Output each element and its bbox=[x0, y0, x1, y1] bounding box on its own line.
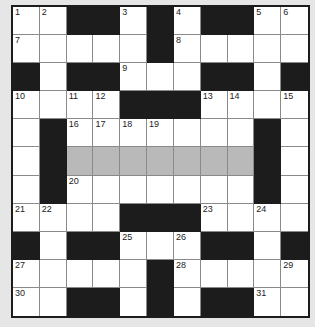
answer-cell[interactable]: 22 bbox=[40, 204, 67, 232]
answer-cell[interactable] bbox=[147, 63, 174, 91]
answer-cell[interactable] bbox=[67, 204, 94, 232]
answer-cell[interactable] bbox=[93, 35, 120, 63]
answer-cell[interactable]: 10 bbox=[13, 91, 40, 119]
clue-number: 8 bbox=[176, 36, 181, 45]
answer-cell[interactable]: 6 bbox=[281, 7, 308, 35]
answer-cell[interactable]: 30 bbox=[13, 288, 40, 316]
answer-cell[interactable] bbox=[281, 204, 308, 232]
answer-cell[interactable] bbox=[40, 232, 67, 260]
black-square bbox=[147, 7, 174, 35]
answer-cell[interactable] bbox=[40, 288, 67, 316]
black-square bbox=[67, 232, 94, 260]
answer-cell[interactable] bbox=[254, 91, 281, 119]
shaded-answer-cell[interactable] bbox=[174, 147, 201, 175]
answer-cell[interactable]: 23 bbox=[201, 204, 228, 232]
crossword-grid: 1234567891011121314151617181920212223242… bbox=[11, 5, 310, 318]
answer-cell[interactable] bbox=[174, 119, 201, 147]
answer-cell[interactable]: 11 bbox=[67, 91, 94, 119]
answer-cell[interactable] bbox=[201, 35, 228, 63]
answer-cell[interactable] bbox=[13, 176, 40, 204]
answer-cell[interactable] bbox=[174, 63, 201, 91]
black-square bbox=[254, 147, 281, 175]
answer-cell[interactable] bbox=[40, 260, 67, 288]
answer-cell[interactable] bbox=[254, 260, 281, 288]
clue-number: 18 bbox=[122, 120, 132, 129]
black-square bbox=[201, 7, 228, 35]
shaded-answer-cell[interactable] bbox=[228, 147, 255, 175]
answer-cell[interactable]: 3 bbox=[120, 7, 147, 35]
clue-number: 24 bbox=[256, 205, 266, 214]
black-square bbox=[67, 7, 94, 35]
answer-cell[interactable]: 27 bbox=[13, 260, 40, 288]
answer-cell[interactable] bbox=[254, 232, 281, 260]
answer-cell[interactable]: 28 bbox=[174, 260, 201, 288]
answer-cell[interactable] bbox=[120, 35, 147, 63]
answer-cell[interactable] bbox=[174, 176, 201, 204]
answer-cell[interactable] bbox=[228, 119, 255, 147]
answer-cell[interactable]: 8 bbox=[174, 35, 201, 63]
answer-cell[interactable] bbox=[120, 288, 147, 316]
answer-cell[interactable]: 21 bbox=[13, 204, 40, 232]
answer-cell[interactable]: 13 bbox=[201, 91, 228, 119]
clue-number: 26 bbox=[176, 233, 186, 242]
answer-cell[interactable] bbox=[93, 260, 120, 288]
answer-cell[interactable] bbox=[147, 176, 174, 204]
answer-cell[interactable] bbox=[40, 63, 67, 91]
shaded-answer-cell[interactable] bbox=[120, 147, 147, 175]
answer-cell[interactable] bbox=[201, 260, 228, 288]
answer-cell[interactable]: 12 bbox=[93, 91, 120, 119]
answer-cell[interactable] bbox=[174, 288, 201, 316]
answer-cell[interactable] bbox=[40, 91, 67, 119]
clue-number: 15 bbox=[283, 92, 293, 101]
answer-cell[interactable]: 9 bbox=[120, 63, 147, 91]
answer-cell[interactable] bbox=[120, 260, 147, 288]
answer-cell[interactable]: 19 bbox=[147, 119, 174, 147]
answer-cell[interactable] bbox=[281, 147, 308, 175]
shaded-answer-cell[interactable] bbox=[93, 147, 120, 175]
answer-cell[interactable]: 16 bbox=[67, 119, 94, 147]
answer-cell[interactable]: 24 bbox=[254, 204, 281, 232]
answer-cell[interactable] bbox=[281, 288, 308, 316]
answer-cell[interactable] bbox=[254, 63, 281, 91]
answer-cell[interactable] bbox=[281, 35, 308, 63]
answer-cell[interactable]: 18 bbox=[120, 119, 147, 147]
answer-cell[interactable] bbox=[228, 260, 255, 288]
answer-cell[interactable]: 14 bbox=[228, 91, 255, 119]
answer-cell[interactable] bbox=[281, 176, 308, 204]
answer-cell[interactable] bbox=[228, 35, 255, 63]
answer-cell[interactable]: 15 bbox=[281, 91, 308, 119]
answer-cell[interactable] bbox=[40, 35, 67, 63]
clue-number: 19 bbox=[149, 120, 159, 129]
answer-cell[interactable]: 1 bbox=[13, 7, 40, 35]
answer-cell[interactable]: 25 bbox=[120, 232, 147, 260]
answer-cell[interactable] bbox=[228, 176, 255, 204]
answer-cell[interactable] bbox=[13, 119, 40, 147]
answer-cell[interactable] bbox=[13, 147, 40, 175]
answer-cell[interactable]: 7 bbox=[13, 35, 40, 63]
answer-cell[interactable] bbox=[67, 260, 94, 288]
clue-number: 20 bbox=[69, 177, 79, 186]
answer-cell[interactable] bbox=[93, 204, 120, 232]
answer-cell[interactable] bbox=[93, 176, 120, 204]
answer-cell[interactable]: 20 bbox=[67, 176, 94, 204]
answer-cell[interactable] bbox=[281, 119, 308, 147]
answer-cell[interactable]: 5 bbox=[254, 7, 281, 35]
shaded-answer-cell[interactable] bbox=[201, 147, 228, 175]
black-square bbox=[93, 232, 120, 260]
answer-cell[interactable] bbox=[120, 176, 147, 204]
answer-cell[interactable] bbox=[201, 119, 228, 147]
answer-cell[interactable]: 4 bbox=[174, 7, 201, 35]
answer-cell[interactable]: 29 bbox=[281, 260, 308, 288]
shaded-answer-cell[interactable] bbox=[67, 147, 94, 175]
answer-cell[interactable]: 17 bbox=[93, 119, 120, 147]
black-square bbox=[40, 119, 67, 147]
answer-cell[interactable]: 2 bbox=[40, 7, 67, 35]
answer-cell[interactable] bbox=[228, 204, 255, 232]
answer-cell[interactable] bbox=[254, 35, 281, 63]
answer-cell[interactable] bbox=[67, 35, 94, 63]
answer-cell[interactable]: 26 bbox=[174, 232, 201, 260]
answer-cell[interactable] bbox=[201, 176, 228, 204]
answer-cell[interactable]: 31 bbox=[254, 288, 281, 316]
shaded-answer-cell[interactable] bbox=[147, 147, 174, 175]
answer-cell[interactable] bbox=[147, 232, 174, 260]
